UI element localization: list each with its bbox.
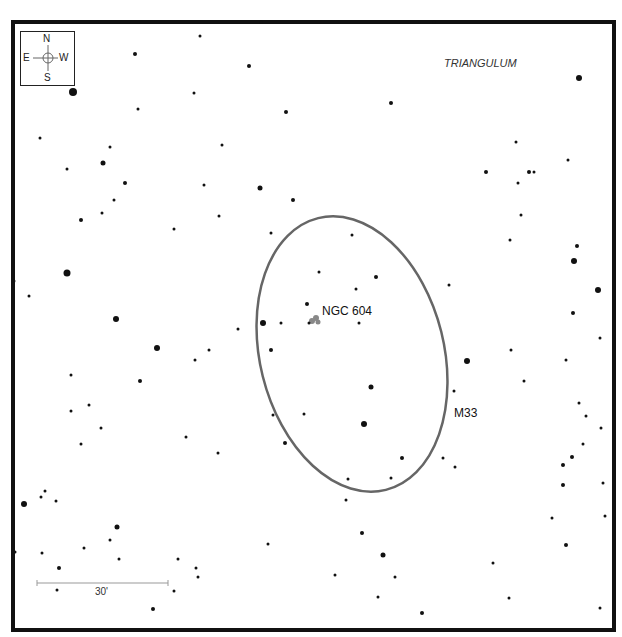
star	[508, 597, 511, 600]
star	[561, 463, 565, 467]
star	[576, 75, 582, 81]
star	[420, 611, 424, 615]
star	[567, 159, 570, 162]
star	[247, 64, 251, 68]
star	[13, 280, 16, 283]
star	[283, 441, 287, 445]
star	[101, 161, 106, 166]
star	[14, 551, 17, 554]
star	[390, 477, 393, 480]
star-field	[0, 0, 622, 637]
constellation-label: TRIANGULUM	[444, 57, 517, 69]
star	[400, 456, 404, 460]
ngc604-nebula	[316, 320, 321, 325]
m33-label: M33	[454, 406, 477, 420]
star	[369, 385, 374, 390]
star	[523, 380, 526, 383]
star	[185, 436, 188, 439]
star	[197, 576, 200, 579]
star	[604, 515, 607, 518]
star	[208, 349, 211, 352]
star	[510, 349, 513, 352]
scale-bar-label: 30'	[95, 586, 108, 597]
star	[218, 215, 221, 218]
star	[585, 415, 588, 418]
star	[305, 302, 309, 306]
star	[69, 88, 77, 96]
star	[28, 295, 31, 298]
star	[88, 404, 91, 407]
star	[394, 576, 397, 579]
star	[217, 452, 220, 455]
star	[113, 316, 119, 322]
star	[599, 607, 602, 610]
star	[41, 552, 44, 555]
star	[389, 101, 393, 105]
star	[80, 443, 83, 446]
star	[578, 402, 581, 405]
star	[571, 258, 577, 264]
star	[194, 359, 197, 362]
star	[561, 483, 565, 487]
star	[454, 466, 457, 469]
star	[355, 288, 358, 291]
star	[565, 359, 568, 362]
star	[173, 228, 176, 231]
star	[484, 170, 488, 174]
star	[492, 562, 495, 565]
star	[599, 337, 602, 340]
star	[133, 52, 137, 56]
crosshair-icon	[21, 32, 74, 85]
star	[291, 198, 295, 202]
star	[520, 214, 523, 217]
star	[303, 413, 306, 416]
star	[203, 184, 206, 187]
star	[177, 558, 180, 561]
star	[280, 322, 283, 325]
star	[260, 21, 263, 24]
star	[595, 287, 601, 293]
compass-rose: N S E W	[20, 31, 75, 86]
star	[64, 270, 71, 277]
star	[308, 322, 311, 325]
star	[433, 21, 436, 24]
star	[55, 500, 58, 503]
star	[360, 531, 364, 535]
star	[57, 566, 61, 570]
star	[448, 284, 451, 287]
star	[575, 244, 579, 248]
star	[113, 199, 116, 202]
star	[21, 501, 27, 507]
star	[137, 108, 140, 111]
star	[44, 490, 47, 493]
star	[358, 322, 361, 325]
star	[193, 92, 196, 95]
star	[123, 181, 127, 185]
star	[83, 547, 86, 550]
star	[269, 348, 273, 352]
star	[453, 390, 456, 393]
star	[258, 186, 263, 191]
star	[109, 539, 112, 542]
star	[347, 478, 350, 481]
star	[39, 137, 42, 140]
star	[318, 271, 321, 274]
star	[600, 427, 603, 430]
star	[70, 374, 73, 377]
star	[442, 457, 445, 460]
star	[173, 590, 176, 593]
star	[284, 110, 288, 114]
star	[138, 379, 142, 383]
star	[118, 558, 121, 561]
star	[533, 171, 536, 174]
star	[40, 496, 43, 499]
star	[381, 553, 386, 558]
star	[570, 455, 574, 459]
star	[109, 146, 112, 149]
star	[351, 234, 354, 237]
star	[515, 141, 518, 144]
star	[374, 275, 378, 279]
star	[237, 328, 240, 331]
star	[195, 567, 198, 570]
star	[571, 311, 575, 315]
